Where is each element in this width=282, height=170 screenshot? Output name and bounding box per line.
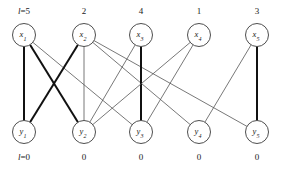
node-x2[interactable]: x2 xyxy=(73,24,96,47)
bottom-annotation-4: 0 xyxy=(255,152,260,162)
top-annotation-0: l=5 xyxy=(18,6,30,16)
node-x4[interactable]: x4 xyxy=(188,24,211,47)
node-x3[interactable]: x3 xyxy=(130,24,153,47)
edge-x2-y5 xyxy=(94,41,247,127)
top-annotation-1: 2 xyxy=(82,6,87,16)
node-y3[interactable]: y3 xyxy=(130,121,153,144)
bottom-annotation-0: l=0 xyxy=(18,152,30,162)
edge-layer xyxy=(24,41,257,127)
node-y2[interactable]: y2 xyxy=(73,121,96,144)
edge-x5-y4 xyxy=(205,45,251,122)
bottom-annotation-2: 0 xyxy=(139,152,144,162)
edge-x4-y3 xyxy=(147,45,193,122)
node-x1[interactable]: x1 xyxy=(13,24,36,47)
edge-x3-y2 xyxy=(90,45,135,122)
node-y5[interactable]: y5 xyxy=(246,121,269,144)
top-annotation-4: 3 xyxy=(255,6,260,16)
graph-canvas: x1x2x3x4x5y1y2y3y4y5 xyxy=(0,0,282,170)
bottom-annotation-1: 0 xyxy=(82,152,87,162)
top-annotation-3: 1 xyxy=(197,6,202,16)
top-annotation-2: 4 xyxy=(139,6,144,16)
bipartite-graph-figure: x1x2x3x4x5y1y2y3y4y5 l=52413l=00000 xyxy=(0,0,282,170)
node-y4[interactable]: y4 xyxy=(188,121,211,144)
edge-x1-y3 xyxy=(33,42,132,124)
node-y1[interactable]: y1 xyxy=(13,121,36,144)
node-x5[interactable]: x5 xyxy=(246,24,269,47)
bottom-annotation-3: 0 xyxy=(197,152,202,162)
